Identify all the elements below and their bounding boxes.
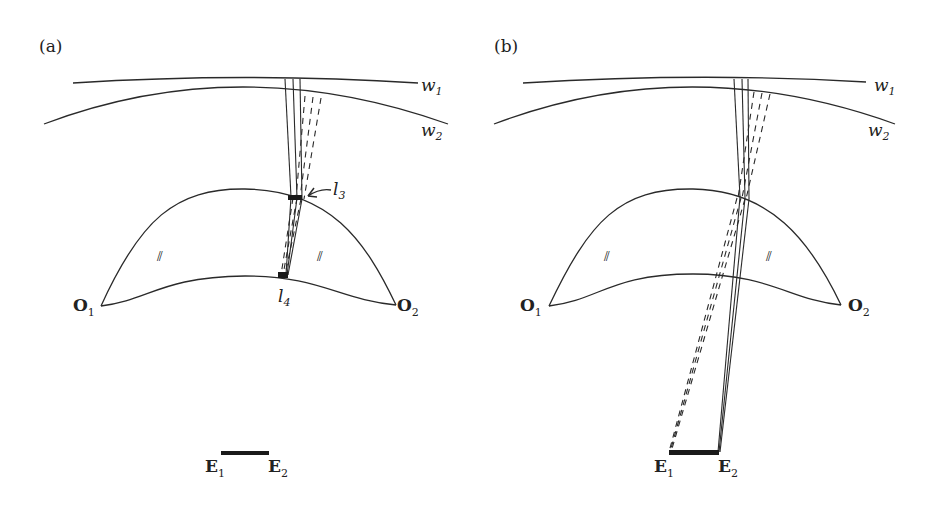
panel-label-b: (b) (494, 36, 518, 56)
solid-ray-bundle-a (285, 79, 302, 275)
label-w1: w1 (421, 75, 443, 98)
eye-baseline-bar-a (221, 451, 269, 455)
label-w2: w2 (421, 120, 443, 143)
eye-baseline-bar-b (669, 450, 719, 455)
l4-mark (278, 272, 288, 278)
hatch-mark-left: ⫽ (603, 249, 610, 264)
lens-bottom-surface (549, 274, 841, 306)
label-o1: O1 (520, 295, 542, 319)
wavefront-w2 (44, 87, 448, 124)
label-w2: w2 (868, 120, 890, 143)
label-o2: O2 (848, 295, 870, 319)
label-e2: E2 (718, 456, 738, 480)
label-e1: E1 (654, 456, 674, 480)
label-w1: w1 (874, 75, 896, 98)
wavefront-w1 (73, 78, 418, 84)
panel-label-a: (a) (39, 36, 62, 56)
lens-top-surface (549, 189, 841, 306)
diagram-canvas: (a) w1 w2 l3 l4 O1 O2 E1 E2 ⫽ ⫽ (0, 0, 927, 510)
label-o1: O1 (73, 295, 95, 319)
wavefront-w1 (523, 77, 866, 83)
l3-mark (288, 195, 302, 200)
panel-b-labels: (b) w1 w2 O1 O2 E1 E2 ⫽ ⫽ (494, 36, 896, 480)
panel-a-labels: (a) w1 w2 l3 l4 O1 O2 E1 E2 ⫽ ⫽ (39, 36, 443, 480)
label-o2: O2 (397, 295, 419, 319)
label-l4: l4 (278, 286, 290, 309)
lens-bottom-surface (101, 276, 396, 306)
hatch-mark-right: ⫽ (765, 249, 772, 264)
label-l3: l3 (333, 179, 345, 202)
label-e1: E1 (205, 456, 225, 480)
lens-top-surface (101, 189, 396, 306)
hatch-mark-left: ⫽ (156, 249, 163, 264)
hatch-mark-right: ⫽ (316, 249, 323, 264)
panel-a (44, 78, 448, 456)
label-e2: E2 (268, 456, 288, 480)
wavefront-w2 (494, 87, 895, 124)
panel-b (494, 77, 895, 455)
dashed-ray-bundle-b (669, 92, 770, 452)
